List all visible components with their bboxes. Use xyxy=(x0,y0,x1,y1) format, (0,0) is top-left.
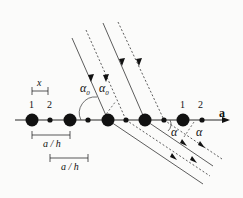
arrow-icon xyxy=(190,156,197,163)
atom-large xyxy=(26,114,39,127)
diagram-canvas xyxy=(0,0,243,198)
incident-angle-label-1: α0 xyxy=(80,82,90,97)
atom-large xyxy=(102,114,115,127)
incident-angle-arc xyxy=(79,97,97,120)
atom-1-label-right: 1 xyxy=(180,100,185,110)
atom-large xyxy=(139,114,152,127)
atom-small xyxy=(123,117,128,122)
subscript: 0 xyxy=(86,89,90,97)
spacing-label-1: a / h xyxy=(43,139,61,149)
atom-large xyxy=(177,114,190,127)
axis-label: a xyxy=(219,107,225,119)
diffracted-angle-label-2: α xyxy=(196,126,202,138)
atom-small xyxy=(199,117,204,122)
atom-small xyxy=(85,117,90,122)
incident-ray-2 xyxy=(103,23,145,120)
subscript: 0 xyxy=(105,89,109,97)
spacing-label-2: a / h xyxy=(61,162,79,172)
atom-1-label-left: 1 xyxy=(29,100,34,110)
arrow-icon xyxy=(180,139,187,146)
incident-angle-label-2: α0 xyxy=(99,82,109,97)
atom-small xyxy=(47,117,52,122)
atom-small xyxy=(161,117,166,122)
atom-2-label-right: 2 xyxy=(198,100,203,110)
period-x-label: x xyxy=(37,78,41,88)
diffracted-ray-2 xyxy=(145,120,213,166)
arrow-icon xyxy=(198,141,205,148)
diffracted-angle-label-1: α xyxy=(171,126,177,138)
arrow-icon xyxy=(170,153,177,160)
atom-2-label-left: 2 xyxy=(47,100,52,110)
arrow-icon xyxy=(88,74,94,82)
diffraction-diagram: x 1 2 1 2 a a / h a / h α0 α0 α α xyxy=(0,0,243,198)
incident-ray-dashed-2 xyxy=(118,22,164,120)
atom-large xyxy=(64,114,77,127)
